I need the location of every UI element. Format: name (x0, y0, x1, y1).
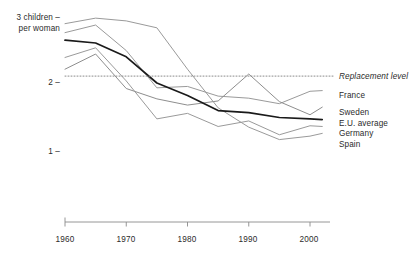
legend-item-germany: Germany (339, 129, 373, 138)
legend-item-sweden: Sweden (339, 108, 369, 117)
series-layer (65, 18, 322, 139)
x-axis-tick-label-1990: 1990 (232, 235, 264, 244)
series-line-sweden (65, 54, 322, 115)
x-axis-layer (65, 218, 330, 227)
x-axis-tick-label-1980: 1980 (171, 235, 203, 244)
legend-item-eu-average: E.U. average (339, 119, 388, 128)
fertility-rate-line-chart: 3 children – per woman 2 – 1 – 1960 1970… (0, 0, 410, 265)
series-line-france (65, 25, 322, 104)
x-axis-tick-label-1970: 1970 (110, 235, 142, 244)
y-axis-top-label-line1: 3 children – (2, 13, 60, 24)
legend-item-spain: Spain (339, 140, 360, 149)
series-line-e-u-average (65, 40, 322, 119)
y-axis-tick-label-2: 2 – (38, 78, 60, 87)
series-line-spain (65, 18, 322, 139)
legend-item-replacement-level: Replacement level (339, 72, 408, 81)
y-axis-tick-label-1: 1 – (38, 147, 60, 156)
y-axis-top-label-line2: per woman (2, 24, 60, 35)
series-line-germany (65, 48, 322, 135)
x-axis-tick-label-1960: 1960 (49, 235, 81, 244)
x-axis-tick-label-2000: 2000 (293, 235, 325, 244)
legend-item-france: France (339, 91, 365, 100)
y-axis-top-label: 3 children – per woman (2, 13, 60, 34)
